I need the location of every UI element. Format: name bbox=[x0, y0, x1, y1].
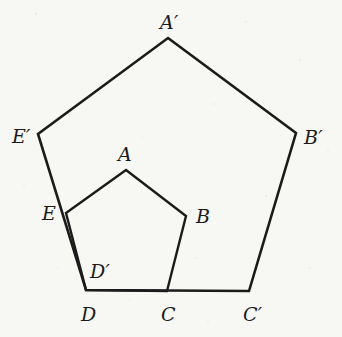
shape-layer bbox=[38, 38, 296, 291]
vertex-label-b-prime: B′ bbox=[304, 128, 323, 147]
pentagon-diagram-canvas bbox=[0, 0, 342, 337]
vertex-label-a: A bbox=[118, 145, 132, 164]
vertex-label-e: E bbox=[42, 204, 56, 223]
geometry-figure: A′ B′ C′ D′ E′ A B C D E bbox=[0, 0, 342, 337]
vertex-label-e-prime: E′ bbox=[12, 127, 31, 146]
vertex-label-c-prime: C′ bbox=[243, 305, 262, 324]
inner-pentagon-shape bbox=[66, 170, 186, 291]
vertex-label-a-prime: A′ bbox=[160, 13, 178, 32]
vertex-label-d-prime: D′ bbox=[90, 262, 110, 281]
vertex-label-b: B bbox=[196, 207, 210, 226]
vertex-label-c: C bbox=[161, 305, 176, 324]
vertex-label-d: D bbox=[81, 305, 96, 324]
